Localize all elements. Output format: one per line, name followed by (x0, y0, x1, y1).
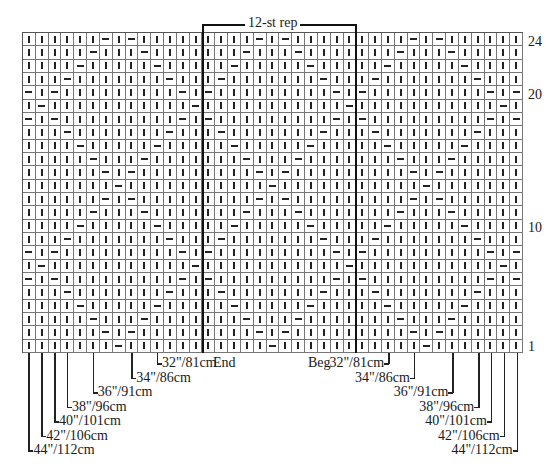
knit-stitch (177, 153, 190, 166)
knit-stitch (23, 166, 36, 179)
knit-stitch (497, 166, 510, 179)
purl-stitch (61, 286, 74, 299)
knit-stitch (202, 73, 215, 86)
knit-stitch (215, 113, 228, 126)
size-marker-line (517, 353, 519, 451)
knit-stitch (254, 246, 267, 259)
knit-stitch (472, 340, 485, 353)
knit-stitch (497, 153, 510, 166)
knit-stitch (190, 233, 203, 246)
purl-stitch (138, 153, 151, 166)
purl-stitch (318, 233, 331, 246)
knit-stitch (510, 126, 523, 139)
knit-stitch (510, 166, 523, 179)
purl-stitch (485, 86, 498, 99)
knit-stitch (164, 326, 177, 339)
knit-stitch (267, 113, 280, 126)
knit-stitch (151, 153, 164, 166)
knit-stitch (228, 340, 241, 353)
purl-stitch (485, 273, 498, 286)
knit-stitch (74, 153, 87, 166)
purl-stitch (369, 286, 382, 299)
knit-stitch (36, 46, 49, 59)
knit-stitch (279, 46, 292, 59)
knit-stitch (446, 33, 459, 46)
purl-stitch (420, 180, 433, 193)
knit-stitch (241, 100, 254, 113)
size-label: 36"/91cm (98, 385, 153, 399)
knit-stitch (228, 326, 241, 339)
knit-stitch (267, 260, 280, 273)
purl-stitch (126, 33, 139, 46)
size-marker-line (478, 353, 480, 408)
knit-stitch (267, 86, 280, 99)
knit-stitch (433, 273, 446, 286)
knit-stitch (446, 60, 459, 73)
knit-stitch (74, 73, 87, 86)
size-marker-line (414, 353, 416, 379)
knit-stitch (356, 233, 369, 246)
knit-stitch (254, 86, 267, 99)
knit-stitch (87, 273, 100, 286)
purl-stitch (472, 233, 485, 246)
knit-stitch (459, 260, 472, 273)
purl-stitch (228, 60, 241, 73)
knit-stitch (485, 260, 498, 273)
knit-stitch (215, 260, 228, 273)
purl-stitch (202, 273, 215, 286)
purl-stitch (369, 126, 382, 139)
size-label: 32"/81cm (329, 356, 384, 370)
knit-stitch (356, 206, 369, 219)
knit-stitch (382, 73, 395, 86)
knit-stitch (331, 233, 344, 246)
purl-stitch (151, 140, 164, 153)
knit-stitch (74, 113, 87, 126)
knit-stitch (420, 206, 433, 219)
knit-stitch (382, 313, 395, 326)
knit-stitch (61, 33, 74, 46)
size-marker-tick (513, 450, 518, 452)
knit-stitch (138, 33, 151, 46)
knit-stitch (472, 220, 485, 233)
knit-stitch (356, 326, 369, 339)
knit-stitch (292, 73, 305, 86)
knit-stitch (433, 286, 446, 299)
knit-stitch (408, 246, 421, 259)
knit-stitch (356, 340, 369, 353)
knit-stitch (100, 140, 113, 153)
knit-stitch (241, 340, 254, 353)
knit-stitch (36, 246, 49, 259)
purl-stitch (408, 193, 421, 206)
purl-stitch (305, 300, 318, 313)
purl-stitch (151, 220, 164, 233)
knit-stitch (113, 46, 126, 59)
knit-stitch (292, 180, 305, 193)
purl-stitch (74, 300, 87, 313)
knit-stitch (228, 33, 241, 46)
knit-stitch (305, 260, 318, 273)
purl-stitch (510, 246, 523, 259)
purl-stitch (459, 60, 472, 73)
knit-stitch (228, 153, 241, 166)
knit-stitch (305, 326, 318, 339)
knit-stitch (113, 233, 126, 246)
knit-stitch (331, 193, 344, 206)
purl-stitch (61, 233, 74, 246)
knit-stitch (433, 86, 446, 99)
knit-stitch (49, 33, 62, 46)
size-marker-line (28, 353, 30, 451)
knit-stitch (74, 86, 87, 99)
knit-stitch (177, 126, 190, 139)
knit-stitch (74, 180, 87, 193)
knit-stitch (446, 220, 459, 233)
knit-stitch (190, 286, 203, 299)
knit-stitch (100, 260, 113, 273)
knit-stitch (202, 153, 215, 166)
knit-stitch (279, 140, 292, 153)
purl-stitch (382, 300, 395, 313)
knit-stitch (395, 233, 408, 246)
knit-stitch (177, 73, 190, 86)
knit-stitch (228, 86, 241, 99)
knit-stitch (408, 180, 421, 193)
knit-stitch (215, 300, 228, 313)
